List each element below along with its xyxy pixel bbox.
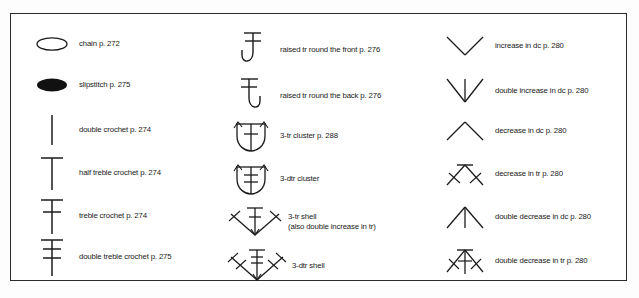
legend-row: double decrease in dc p. 280 xyxy=(439,203,591,231)
legend-label: double increase in dc p. 280 xyxy=(495,86,588,96)
legend-row: double crochet p. 274 xyxy=(29,113,151,147)
legend-label: half treble crochet p. 274 xyxy=(79,168,161,178)
legend-frame: chain p. 272 slipstitch p. 275 double cr… xyxy=(10,13,627,281)
legend-row: treble crochet p. 274 xyxy=(29,196,147,236)
open-ellipse-icon xyxy=(29,36,75,52)
raised-tr-front-hook-icon xyxy=(226,30,276,70)
legend-label: increase in dc p. 280 xyxy=(495,41,564,51)
legend-label: double crochet p. 274 xyxy=(79,125,151,135)
raised-tr-back-hook-icon xyxy=(226,76,276,116)
legend-row: 3-tr shell (also double increase in tr) xyxy=(226,204,376,240)
legend-row: double increase in dc p. 280 xyxy=(439,76,588,106)
v-double-increase-icon xyxy=(439,76,491,106)
legend-label: double decrease in dc p. 280 xyxy=(495,212,591,222)
one-crossbar-stem-icon xyxy=(29,196,75,236)
legend-label: 3-dtr shell xyxy=(292,261,325,271)
vertical-bar-icon xyxy=(29,113,75,147)
legend-row: raised tr round the back p. 276 xyxy=(226,76,381,116)
triple-decrease-tr-icon xyxy=(439,245,491,277)
lambda-decrease-icon xyxy=(439,119,491,143)
two-crossbar-stem-icon xyxy=(29,236,75,278)
legend-label: 3-tr shell (also double increase in tr) xyxy=(288,212,376,233)
legend-label: slipstitch p. 275 xyxy=(79,80,130,90)
v-increase-icon xyxy=(439,34,491,58)
triple-decrease-dc-icon xyxy=(439,203,491,231)
t-bar-icon xyxy=(29,154,75,192)
legend-row: chain p. 272 xyxy=(29,36,120,52)
legend-row: decrease in dc p. 280 xyxy=(439,119,566,143)
legend-column-2: raised tr round the front p. 276 raised … xyxy=(226,14,441,280)
legend-column-1: chain p. 272 slipstitch p. 275 double cr… xyxy=(29,14,234,280)
legend-row: increase in dc p. 280 xyxy=(439,34,564,58)
legend-row: slipstitch p. 275 xyxy=(29,77,130,93)
legend-label: chain p. 272 xyxy=(79,39,120,49)
legend-column-3: increase in dc p. 280 double increase in… xyxy=(439,14,629,280)
symbol-key-sheet: chain p. 272 slipstitch p. 275 double cr… xyxy=(0,0,639,298)
legend-label: decrease in dc p. 280 xyxy=(495,126,566,136)
legend-row: raised tr round the front p. 276 xyxy=(226,30,380,70)
legend-row: double decrease in tr p. 280 xyxy=(439,245,587,277)
legend-label: raised tr round the front p. 276 xyxy=(280,45,380,55)
legend-label: 3-tr cluster p. 288 xyxy=(280,131,338,141)
filled-ellipse-icon xyxy=(29,77,75,93)
legend-label: double decrease in tr p. 280 xyxy=(495,256,587,266)
legend-row: double treble crochet p. 275 xyxy=(29,236,171,278)
legend-row: 3-tr cluster p. 288 xyxy=(226,119,338,153)
legend-label: double treble crochet p. 275 xyxy=(79,252,171,262)
legend-row: decrease in tr p. 280 xyxy=(439,160,563,188)
legend-row: 3-dtr shell xyxy=(226,247,325,285)
legend-row: half treble crochet p. 274 xyxy=(29,154,161,192)
legend-label: raised tr round the back p. 276 xyxy=(280,91,381,101)
lambda-decrease-tr-icon xyxy=(439,160,491,188)
three-tr-shell-icon xyxy=(226,204,284,240)
three-dtr-shell-icon xyxy=(226,247,288,285)
three-dtr-cluster-icon xyxy=(226,162,276,196)
legend-label: decrease in tr p. 280 xyxy=(495,169,563,179)
legend-label: 3-dtr cluster xyxy=(280,174,319,184)
legend-row: 3-dtr cluster xyxy=(226,162,319,196)
legend-label: treble crochet p. 274 xyxy=(79,211,147,221)
three-tr-cluster-icon xyxy=(226,119,276,153)
